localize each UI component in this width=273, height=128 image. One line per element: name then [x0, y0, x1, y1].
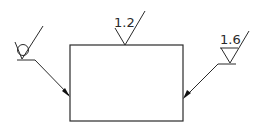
circle-modifier-icon [18, 45, 29, 56]
drawing-canvas: 1.2 1.6 [0, 0, 273, 128]
surface-finish-symbol-top: 1.2 [114, 11, 145, 45]
leader-line-right [186, 64, 218, 96]
symbol-top-short-leg [115, 28, 125, 45]
symbol-right-short-leg [221, 48, 230, 63]
roughness-value-right: 1.6 [220, 32, 241, 47]
surface-finish-symbol-right: 1.6 [183, 31, 249, 99]
roughness-value-top: 1.2 [114, 15, 135, 30]
surface-finish-symbol-left [15, 26, 70, 97]
arrowhead-right-icon [183, 90, 191, 99]
symbol-left-long-leg [22, 26, 43, 59]
part-outline [70, 45, 183, 121]
